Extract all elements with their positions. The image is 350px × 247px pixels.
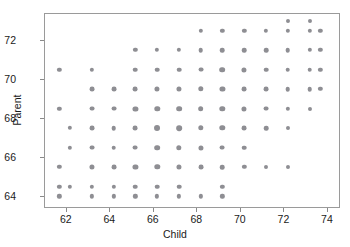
y-axis-tick-label: 72 (4, 34, 16, 46)
y-axis-tick (40, 79, 44, 80)
x-axis-tick-label: 72 (278, 213, 290, 225)
y-axis-tick-label: 64 (4, 190, 16, 202)
x-axis-tick-label: 70 (234, 213, 246, 225)
y-axis-tick-label: 70 (4, 73, 16, 85)
y-axis-tick-label: 66 (4, 151, 16, 163)
x-axis-tick (109, 208, 110, 212)
x-axis-tick-label: 68 (191, 213, 203, 225)
x-axis-tick (327, 208, 328, 212)
y-axis-tick (40, 196, 44, 197)
plot-frame (44, 13, 340, 208)
x-axis-tick-label: 64 (103, 213, 115, 225)
x-axis-tick-label: 74 (321, 213, 333, 225)
scatter-plot-figure: 626466687072746466687072 Child Parent (0, 0, 350, 247)
y-axis-tick (40, 40, 44, 41)
x-axis-tick (240, 208, 241, 212)
x-axis-tick (283, 208, 284, 212)
y-axis-tick (40, 118, 44, 119)
y-axis-tick (40, 157, 44, 158)
x-axis-tick-label: 62 (60, 213, 72, 225)
x-axis-tick (196, 208, 197, 212)
x-axis-tick-label: 66 (147, 213, 159, 225)
x-axis-tick (66, 208, 67, 212)
x-axis-label: Child (0, 228, 350, 240)
x-axis-tick (153, 208, 154, 212)
y-axis-label: Parent (11, 95, 23, 126)
